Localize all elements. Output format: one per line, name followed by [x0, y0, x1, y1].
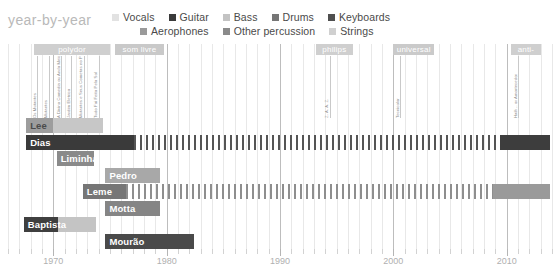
table-row[interactable]: Baptista	[0, 217, 554, 232]
axis-tick	[325, 249, 326, 254]
axis-tick	[484, 249, 485, 254]
axis-tick	[359, 249, 360, 254]
legend-label: Vocals	[123, 11, 155, 23]
legend-item-vocals[interactable]: Vocals	[112, 11, 155, 23]
legend-label: Drums	[283, 11, 314, 23]
axis-tick	[121, 249, 122, 254]
axis-tick	[291, 249, 292, 254]
legend-item-other-percussion[interactable]: Other percussion	[223, 25, 316, 37]
axis-tick	[427, 249, 428, 254]
table-row[interactable]: Motta	[0, 201, 554, 216]
record-label-band[interactable]: philips	[316, 44, 352, 55]
axis-tick-label: 2000	[383, 256, 403, 266]
axis-tick	[65, 249, 66, 254]
legend-swatch-icon	[140, 28, 147, 35]
record-label-band[interactable]: polydor	[34, 44, 110, 55]
member-name-label: Lee	[26, 118, 47, 133]
legend-label: Keyboards	[339, 11, 390, 23]
axis-tick	[76, 249, 77, 254]
album-title-label: Os Mutantes	[30, 56, 39, 118]
legend-swatch-icon	[272, 14, 279, 21]
axis-tick	[110, 249, 111, 254]
axis-tick	[53, 249, 54, 256]
legend-row: VocalsGuitarBassDrumsKeyboards	[112, 10, 552, 24]
axis-tick	[8, 249, 9, 254]
legend-swatch-icon	[328, 14, 335, 21]
axis-tick	[269, 249, 270, 254]
axis-tick	[518, 249, 519, 254]
axis-tick	[382, 249, 383, 254]
axis-tick	[439, 249, 440, 254]
table-row[interactable]: Mourão	[0, 234, 554, 249]
axis-tick	[371, 249, 372, 254]
axis-tick	[461, 249, 462, 254]
legend-label: Strings	[340, 25, 373, 37]
album-title-label: Mutantes	[41, 56, 50, 118]
table-row[interactable]: Dias	[0, 135, 554, 150]
timeline-segment[interactable]	[500, 135, 550, 150]
album-title-label: Mutantes e Seus Cometas no Pais do Baure…	[76, 56, 85, 118]
chart-header: year-by-year VocalsGuitarBassDrumsKeyboa…	[0, 10, 554, 44]
axis-tick	[235, 249, 236, 254]
timeline-segment[interactable]	[126, 184, 493, 199]
axis-tick	[223, 249, 224, 254]
axis-tick	[19, 249, 20, 254]
legend-swatch-icon	[169, 14, 176, 21]
axis-tick	[189, 249, 190, 254]
axis-tick	[99, 249, 100, 254]
timeline-segment[interactable]	[53, 118, 103, 133]
axis-tick	[280, 249, 281, 256]
timeline-segment[interactable]	[493, 184, 550, 199]
legend-item-strings[interactable]: Strings	[329, 25, 373, 37]
axis-tick-label: 2010	[497, 256, 517, 266]
axis-tick	[416, 249, 417, 254]
axis-tick	[42, 249, 43, 254]
table-row[interactable]: Leme	[0, 184, 554, 199]
album-release-markers: Os MutantesMutantesA Divina Comedia ou A…	[0, 56, 554, 118]
legend-item-drums[interactable]: Drums	[272, 11, 314, 23]
table-row[interactable]: Lee	[0, 118, 554, 133]
axis-tick	[495, 249, 496, 254]
axis-tick	[541, 249, 542, 254]
axis-tick	[212, 249, 213, 254]
album-title-label: Z. A. A. Z.	[322, 56, 331, 118]
legend-item-guitar[interactable]: Guitar	[169, 11, 209, 23]
album-title-label: Haih .. or Amortecedor	[511, 56, 520, 118]
chart-legend: VocalsGuitarBassDrumsKeyboardsAerophones…	[112, 10, 552, 38]
record-label-band[interactable]: som livre	[115, 44, 165, 55]
axis-tick-label: 1990	[270, 256, 290, 266]
axis-tick-label: 1980	[157, 256, 177, 266]
axis-tick	[405, 249, 406, 254]
axis-tick	[393, 249, 394, 256]
album-title-label: Tecnicolor	[393, 56, 402, 118]
legend-item-bass[interactable]: Bass	[223, 11, 258, 23]
axis-tick	[507, 249, 508, 256]
legend-item-keyboards[interactable]: Keyboards	[328, 11, 390, 23]
plot-area: polydorsom livrephilipsuniversalanti- Os…	[0, 44, 554, 249]
legend-label: Other percussion	[234, 25, 316, 37]
legend-swatch-icon	[112, 14, 119, 21]
album-title-label: Jardim Eletrico	[64, 56, 73, 118]
album-title-label: A Divina Comedia ou Ando Meio Desligado	[54, 56, 63, 118]
axis-tick	[133, 249, 134, 254]
timeline-segment[interactable]	[134, 135, 500, 150]
legend-swatch-icon	[223, 14, 230, 21]
legend-item-aerophones[interactable]: Aerophones	[140, 25, 209, 37]
member-name-label: Dias	[26, 135, 50, 150]
axis-tick-label: 1970	[43, 256, 63, 266]
table-row[interactable]: Pedro	[0, 168, 554, 183]
axis-tick	[348, 249, 349, 254]
axis-tick	[201, 249, 202, 254]
table-row[interactable]: Liminha	[0, 151, 554, 166]
axis-tick	[87, 249, 88, 254]
axis-tick	[31, 249, 32, 254]
axis-tick	[450, 249, 451, 254]
record-label-band[interactable]: universal	[393, 44, 434, 55]
axis-tick	[473, 249, 474, 254]
axis-tick	[303, 249, 304, 254]
legend-swatch-icon	[223, 28, 230, 35]
member-name-label: Motta	[105, 201, 135, 216]
member-name-label: Liminha	[57, 151, 98, 166]
record-label-band[interactable]: anti-	[511, 44, 540, 55]
axis-tick	[529, 249, 530, 254]
